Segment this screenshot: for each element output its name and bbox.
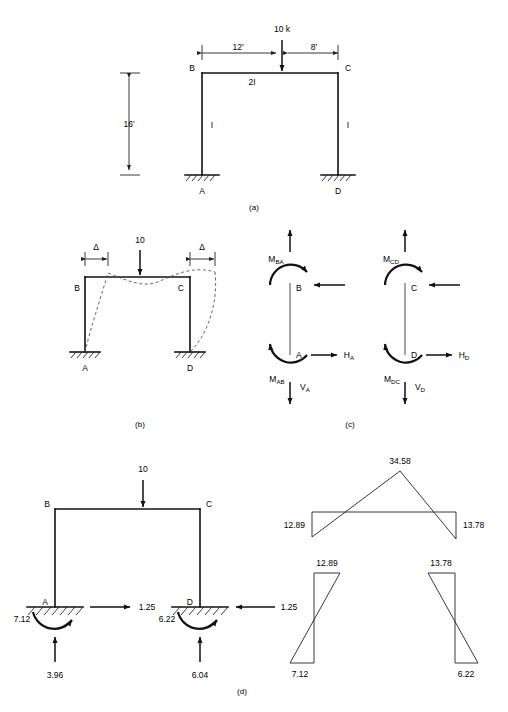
panel-d-horizontal-d-label: 1.25 xyxy=(281,602,298,612)
left-column-bmd-bottom-label: 7.12 xyxy=(292,669,309,679)
right-column-bending-moment-diagram: 13.78 6.22 xyxy=(428,558,478,679)
panel-b-support-a xyxy=(70,352,100,358)
panel-d-moment-a-label: 7.12 xyxy=(14,614,31,624)
panel-a-dim-left-label: 12' xyxy=(232,42,243,52)
panel-b-support-d xyxy=(175,352,205,358)
left-column-bmd-profile xyxy=(290,573,340,663)
panel-c: MBA B MAB A HA VA MCD C MDC D xyxy=(268,230,470,429)
panel-b-deflected-column-left xyxy=(85,273,108,352)
panel-b-joint-b-label: B xyxy=(74,283,80,293)
panel-c-left-joint-top-label: B xyxy=(296,283,302,293)
panel-c-right-joint-top-label: C xyxy=(411,283,417,293)
panel-c-left-moment-bottom-label: MAB xyxy=(269,374,284,385)
beam-bmd-peak-label: 34.58 xyxy=(389,456,411,466)
beam-bmd-right-label: 13.78 xyxy=(463,520,485,530)
beam-bmd-left-label: 12.89 xyxy=(284,520,306,530)
panel-c-right-v-reaction-label: VD xyxy=(415,382,426,393)
panel-a-joint-b-label: B xyxy=(189,63,195,73)
panel-d-vertical-d-label: 6.04 xyxy=(192,670,209,680)
left-column-bending-moment-diagram: 12.89 7.12 xyxy=(290,558,340,679)
panel-d-vertical-a-label: 3.96 xyxy=(47,670,64,680)
panel-a-dimension-horizontal: 12' 8' xyxy=(202,42,338,60)
panel-b-joint-c-label: C xyxy=(178,283,184,293)
panel-b-sway-left: Δ xyxy=(85,242,108,266)
panel-d-support-d xyxy=(172,607,228,615)
panel-b-sway-right: Δ xyxy=(190,242,215,266)
panel-d-caption: (d) xyxy=(237,687,247,696)
panel-c-right-joint-bottom-label: D xyxy=(411,350,417,360)
panel-a-support-a-label: A xyxy=(199,186,205,196)
panel-a-dimension-vertical: 16' xyxy=(120,73,140,175)
panel-d: 10 B C A D 1.25 7.12 3.96 xyxy=(14,456,485,696)
panel-c-left-moment-top-arc xyxy=(270,265,307,285)
panel-b-support-d-label: D xyxy=(187,363,193,373)
panel-d-support-a-label: A xyxy=(42,597,48,607)
panel-b-sway-right-label: Δ xyxy=(199,242,205,252)
panel-b-support-a-label: A xyxy=(82,363,88,373)
panel-d-joint-b-label: B xyxy=(44,499,50,509)
panel-c-right-h-reaction-label: HD xyxy=(459,350,470,361)
panel-c-right-moment-bottom-label: MDC xyxy=(384,374,401,385)
panel-a-dim-height-label: 16' xyxy=(123,119,134,129)
panel-d-load-label: 10 xyxy=(138,464,148,474)
panel-a-joint-c-label: C xyxy=(345,63,351,73)
panel-b: 10 Δ Δ B C A D (b) xyxy=(70,235,216,429)
figure-root: 10 k 12' 8' 16' 2I I I B C A D (a) xyxy=(0,0,508,712)
panel-a-support-d-label: D xyxy=(335,186,341,196)
panel-c-left-h-reaction-label: HA xyxy=(344,350,355,361)
panel-a-column-right-stiffness-label: I xyxy=(347,120,349,130)
panel-b-deflected-column-right xyxy=(190,272,216,352)
figure-canvas: 10 k 12' 8' 16' 2I I I B C A D (a) xyxy=(0,0,508,712)
panel-a-load-label: 10 k xyxy=(274,24,291,34)
panel-a-support-d xyxy=(321,175,355,181)
panel-d-reaction-frame: 10 B C A D 1.25 7.12 3.96 xyxy=(14,464,298,680)
panel-c-caption: (c) xyxy=(345,420,355,429)
panel-d-moment-d-label: 6.22 xyxy=(159,614,176,624)
panel-b-caption: (b) xyxy=(135,420,145,429)
panel-d-horizontal-a-label: 1.25 xyxy=(139,602,156,612)
panel-b-load-label: 10 xyxy=(135,235,145,245)
panel-c-left-joint-bottom-label: A xyxy=(296,350,302,360)
panel-c-right-moment-top-arc xyxy=(385,265,422,285)
panel-c-left-free-body: MBA B MAB A HA VA xyxy=(268,230,355,404)
panel-c-left-v-reaction-label: VA xyxy=(300,382,311,393)
panel-a-beam-stiffness-label: 2I xyxy=(248,77,255,87)
beam-bending-moment-diagram: 34.58 12.89 13.78 xyxy=(284,456,485,539)
panel-d-support-d-label: D xyxy=(187,597,193,607)
panel-a-support-a xyxy=(185,175,219,181)
panel-a-caption: (a) xyxy=(249,203,259,212)
right-column-bmd-bottom-label: 6.22 xyxy=(458,669,475,679)
panel-b-sway-left-label: Δ xyxy=(93,242,99,252)
right-column-bmd-top-label: 13.78 xyxy=(430,558,452,568)
panel-a-column-left-stiffness-label: I xyxy=(211,120,213,130)
panel-d-joint-c-label: C xyxy=(206,499,212,509)
right-column-bmd-profile xyxy=(428,573,478,663)
panel-d-support-a xyxy=(27,607,83,615)
panel-a-dim-right-label: 8' xyxy=(311,42,318,52)
left-column-bmd-top-label: 12.89 xyxy=(316,558,338,568)
panel-c-left-moment-top-label: MBA xyxy=(268,254,284,265)
panel-c-right-moment-top-label: MCD xyxy=(383,254,400,265)
panel-c-right-free-body: MCD C MDC D HD VD xyxy=(383,230,470,404)
panel-a: 10 k 12' 8' 16' 2I I I B C A D (a) xyxy=(120,24,355,212)
beam-bmd-profile xyxy=(312,471,456,539)
